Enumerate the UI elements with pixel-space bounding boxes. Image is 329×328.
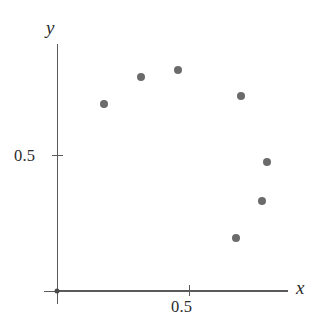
x-axis-tick-0.5: [189, 285, 190, 296]
data-point: [263, 158, 271, 166]
x-axis-label: x: [296, 277, 304, 299]
scatter-plot-figure: 0.5 0.5 y x: [0, 0, 329, 328]
x-axis-line: [57, 290, 288, 292]
y-axis-tick-label-0.5: 0.5: [14, 146, 35, 166]
y-axis-tick-0.5: [52, 155, 63, 156]
y-axis-line: [57, 44, 59, 291]
data-point: [174, 66, 182, 74]
data-point: [237, 92, 245, 100]
origin-point-marker: [55, 288, 60, 293]
data-point: [137, 73, 145, 81]
data-point: [100, 100, 108, 108]
data-point: [232, 234, 240, 242]
x-axis-tick-label-0.5: 0.5: [171, 297, 192, 317]
y-axis-label: y: [46, 17, 54, 39]
data-point: [258, 197, 266, 205]
